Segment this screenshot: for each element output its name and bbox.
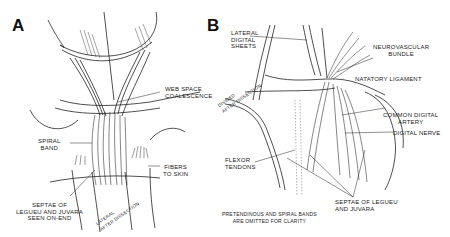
panel-b: B LATERAL DIGITAL SHEETS NEUROVASCULAR B… xyxy=(225,0,450,237)
label-septae-legueu-juvara-b: SEPTAE OF LEGUEU AND JUVARA xyxy=(335,199,398,212)
label-common-digital-artery: COMMON DIGITAL ARTERY xyxy=(383,112,438,125)
panel-a: A WEB SPACE COALESCENCE SPIRAL BAND FIBE… xyxy=(0,0,225,237)
figure-caption: PRETENDINOUS AND SPIRAL BANDS ARE OMITTE… xyxy=(222,211,317,224)
panel-a-letter: A xyxy=(12,16,24,36)
label-lateral-digital-sheets: LATERAL DIGITAL SHEETS xyxy=(231,30,259,50)
label-flexor-tendons: FLEXOR TENDONS xyxy=(225,157,256,170)
label-natatory-ligament: NATATORY LIGAMENT xyxy=(355,76,422,83)
label-fibers-to-skin: FIBERS TO SKIN xyxy=(163,164,188,177)
label-web-space-coalescence: WEB SPACE COALESCENCE xyxy=(165,86,213,99)
label-septae-legueu-juvara: SEPTAE OF LEGUEU AND JUVARA SEEN ON-END xyxy=(16,202,83,222)
panel-b-letter: B xyxy=(207,16,219,36)
label-digital-nerve: DIGITAL NERVE xyxy=(393,130,441,137)
label-neurovascular-bundle: NEUROVASCULAR BUNDLE xyxy=(373,44,429,57)
label-spiral-band: SPIRAL BAND xyxy=(38,138,61,151)
